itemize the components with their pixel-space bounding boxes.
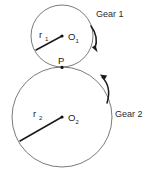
gear-diagram-figure: r 1 O 1 P r 2 O 2 Gear 1 Gear 2: [0, 0, 159, 176]
gear2-center-dot: [60, 115, 63, 118]
radius2-subscript: 2: [39, 115, 43, 121]
radius2-label: r: [33, 108, 36, 119]
center1-label: O: [68, 31, 75, 42]
gear1-rotation-arrowhead-icon: [92, 45, 98, 52]
gear1-label: Gear 1: [96, 9, 124, 19]
radius1-label: r: [39, 29, 42, 40]
center2-label: O: [68, 112, 75, 123]
center2-subscript: 2: [76, 119, 80, 125]
radius1-subscript: 1: [45, 36, 49, 42]
gear-diagram-canvas: r 1 O 1 P r 2 O 2 Gear 1 Gear 2: [0, 0, 159, 176]
contact-point-dot: [60, 66, 63, 69]
center1-subscript: 1: [76, 38, 80, 44]
gear2-label: Gear 2: [115, 109, 143, 119]
gear2-rotation-arc-icon: [102, 77, 109, 103]
gear1-center-dot: [60, 34, 63, 37]
contact-point-label: P: [58, 55, 64, 66]
